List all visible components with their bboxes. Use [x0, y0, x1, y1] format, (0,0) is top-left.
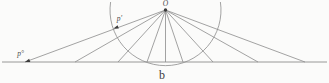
projection-ray [25, 10, 166, 62]
projection-ray [166, 10, 306, 62]
projection-ray [118, 10, 166, 62]
ground-point-label: p° [17, 50, 24, 58]
figure-caption: b [159, 69, 165, 81]
apex-point-label: O [163, 0, 168, 8]
apex-point-dot [164, 8, 167, 11]
arrowhead [25, 59, 30, 62]
projection-ray [166, 10, 259, 62]
arrowhead [114, 25, 119, 28]
projection-ray [147, 10, 166, 62]
projection-ray [166, 10, 214, 62]
projection-ray [166, 10, 184, 62]
geometry-figure: O p′ p° b [0, 0, 329, 83]
arc-point-label: p′ [117, 15, 122, 23]
